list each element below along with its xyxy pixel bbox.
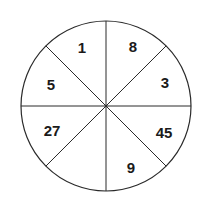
sector-label-right-upper: 3 <box>161 74 169 91</box>
sector-label-right-lower: 45 <box>156 124 173 141</box>
sector-label-left-upper: 5 <box>47 76 55 93</box>
sector-label-left-lower: 27 <box>44 122 61 139</box>
sector-label-bottom-right: 9 <box>127 159 135 176</box>
sector-label-top-right: 8 <box>129 38 137 55</box>
center-point <box>105 105 108 108</box>
sector-label-top-left: 1 <box>78 39 86 56</box>
sectored-circle-diagram: 1 8 3 45 9 27 5 <box>0 0 200 205</box>
